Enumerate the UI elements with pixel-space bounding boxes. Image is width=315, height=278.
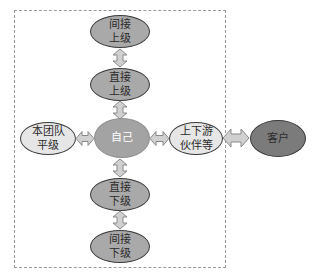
node-direct-subordinate: 直接 下级 (90, 178, 150, 211)
horizontal-double-arrow-icon (150, 131, 169, 146)
node-team-peers: 本团队 平级 (20, 122, 76, 155)
node-label: 直接 下级 (109, 181, 131, 209)
node-label: 间接 下级 (109, 233, 131, 261)
node-label: 自己 (111, 131, 133, 145)
vertical-double-arrow-icon (112, 49, 128, 67)
node-label: 客户 (267, 132, 289, 146)
node-indirect-superior: 间接 上级 (90, 15, 150, 48)
node-self: 自己 (94, 118, 150, 158)
horizontal-double-arrow-icon (223, 128, 249, 148)
node-direct-superior: 直接 上级 (90, 68, 150, 101)
node-customer: 客户 (250, 120, 306, 157)
node-label: 直接 上级 (109, 71, 131, 99)
node-label: 本团队 平级 (32, 125, 65, 153)
vertical-double-arrow-icon (112, 159, 128, 177)
node-partners: 上下游 伙伴等 (169, 122, 223, 155)
vertical-double-arrow-icon (112, 211, 128, 229)
node-indirect-subordinate: 间接 下级 (90, 230, 150, 263)
horizontal-double-arrow-icon (76, 131, 94, 146)
vertical-double-arrow-icon (112, 101, 128, 119)
node-label: 上下游 伙伴等 (180, 125, 213, 153)
node-label: 间接 上级 (109, 18, 131, 46)
